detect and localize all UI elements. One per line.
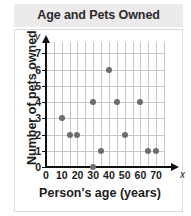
gridline-horizontal (46, 135, 164, 136)
gridline-horizontal (46, 102, 164, 103)
x-axis-letter: x (180, 170, 185, 180)
x-tick-label: 60 (135, 170, 147, 181)
x-tick-label: 20 (72, 170, 84, 181)
gridline-vertical (70, 42, 71, 167)
y-tick-mark (42, 102, 46, 103)
x-tick-label: 40 (103, 170, 115, 181)
y-tick-label: 6 (35, 64, 41, 75)
y-tick-mark (42, 135, 46, 136)
data-point (114, 99, 120, 105)
chart-card: Number of pets owned Person's age (years… (14, 29, 183, 212)
data-point (98, 148, 104, 154)
y-tick-label: 3 (35, 113, 41, 124)
gridline-horizontal (46, 86, 164, 87)
title-band: Age and Pets Owned (14, 4, 183, 27)
gridline-vertical (77, 42, 78, 167)
y-tick-mark (42, 118, 46, 119)
data-point (67, 132, 73, 138)
data-point (106, 67, 112, 73)
y-tick-label: 7 (35, 48, 41, 59)
data-point (90, 99, 96, 105)
gridline-vertical (164, 42, 165, 167)
x-tick-label: 10 (56, 170, 68, 181)
chart-page: Age and Pets Owned Number of pets owned … (0, 0, 191, 216)
y-tick-label: 2 (35, 129, 41, 140)
x-axis-arrow-icon (171, 163, 179, 171)
x-tick-label: 30 (87, 170, 99, 181)
gridline-vertical (62, 42, 63, 167)
data-point (137, 99, 143, 105)
y-tick-mark (42, 86, 46, 87)
y-axis-arrow-icon (42, 35, 50, 43)
chart-title: Age and Pets Owned (14, 4, 183, 27)
y-axis-letter: y (35, 32, 40, 42)
x-axis-line (45, 166, 172, 168)
y-tick-label: 0 (35, 162, 41, 173)
data-point (153, 148, 159, 154)
y-tick-label: 4 (35, 97, 41, 108)
y-tick-label: 5 (35, 81, 41, 92)
y-axis-line (45, 42, 47, 167)
gridline-vertical (109, 42, 110, 167)
gridline-horizontal (46, 53, 164, 54)
gridline-vertical (85, 42, 86, 167)
gridline-vertical (54, 42, 55, 167)
x-tick-label: 0 (43, 170, 49, 181)
y-tick-mark (42, 151, 46, 152)
data-point (74, 132, 80, 138)
y-tick-mark (42, 167, 46, 168)
x-tick-label: 70 (150, 170, 162, 181)
gridline-vertical (133, 42, 134, 167)
data-point (59, 115, 65, 121)
y-tick-mark (42, 53, 46, 54)
data-point (122, 132, 128, 138)
plot-area: y x 01234567 010203040506070 (46, 42, 164, 167)
y-tick-mark (42, 70, 46, 71)
data-point (145, 148, 151, 154)
x-tick-label: 50 (119, 170, 131, 181)
gridline-vertical (125, 42, 126, 167)
x-axis-label: Person's age (years) (21, 184, 179, 202)
y-tick-label: 1 (35, 146, 41, 157)
